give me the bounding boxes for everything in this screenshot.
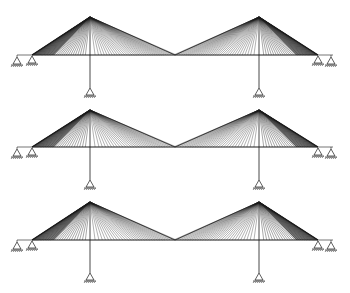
end-support-right-outer-icon (325, 57, 337, 67)
left-cable-fan (32, 17, 175, 55)
end-support-left-outer-icon (11, 242, 23, 252)
end-support-right-inner-icon (312, 148, 324, 158)
bridge-models-svg (0, 0, 350, 293)
end-support-right-outer-icon (325, 149, 337, 159)
end-support-right-inner-icon (312, 241, 324, 251)
deck (17, 240, 333, 242)
right-pier-support-icon (253, 88, 265, 98)
bridge-2 (11, 110, 337, 190)
left-cable-fan (32, 110, 175, 147)
left-tower (84, 17, 96, 98)
right-cable-fan (175, 110, 318, 147)
right-pier-support-icon (253, 180, 265, 190)
end-support-left-outer-icon (11, 149, 23, 159)
end-support-left-inner-icon (26, 241, 38, 251)
bridge-3 (11, 202, 337, 283)
left-cable-fan (32, 202, 175, 240)
end-support-left-inner-icon (26, 148, 38, 158)
left-pier-support-icon (84, 180, 96, 190)
bridge-1 (11, 17, 337, 98)
end-support-right-outer-icon (325, 242, 337, 252)
deck (17, 55, 333, 57)
right-pier-support-icon (253, 273, 265, 283)
end-support-right-inner-icon (312, 56, 324, 66)
end-support-left-outer-icon (11, 57, 23, 67)
right-cable-fan (175, 17, 318, 55)
end-support-left-inner-icon (26, 56, 38, 66)
right-cable-fan (175, 202, 318, 240)
left-pier-support-icon (84, 273, 96, 283)
deck (17, 147, 333, 149)
bridge-diagram-figure (0, 0, 350, 293)
left-pier-support-icon (84, 88, 96, 98)
